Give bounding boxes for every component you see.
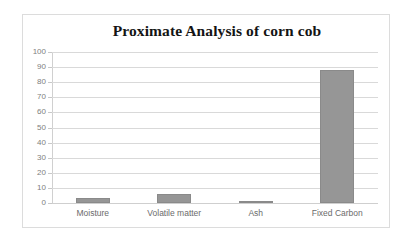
y-axis-tick-label: 30 [20, 153, 46, 162]
y-axis-tick-mark [48, 97, 52, 98]
bar-slot [297, 52, 379, 203]
y-axis-tick-mark [48, 128, 52, 129]
x-axis-category-label: Ash [215, 207, 297, 219]
y-axis-tick-mark [48, 67, 52, 68]
bar-volatile-matter[interactable] [157, 194, 191, 203]
y-axis-tick-label: 50 [20, 123, 46, 132]
y-axis-tick-mark [48, 173, 52, 174]
y-axis-tick-label: 10 [20, 183, 46, 192]
y-axis-tick-label: 40 [20, 138, 46, 147]
x-axis-category-label: Volatile matter [134, 207, 216, 219]
y-axis-tick-mark [48, 158, 52, 159]
y-axis-tick-mark [48, 52, 52, 53]
y-axis-tick-mark [48, 203, 52, 204]
chart-title: Proximate Analysis of corn cob [52, 22, 382, 40]
y-axis-tick-label: 60 [20, 107, 46, 116]
bar-slot [52, 52, 134, 203]
x-axis-category-label: Fixed Carbon [297, 207, 379, 219]
x-axis-category-label: Moisture [52, 207, 134, 219]
plot-area [52, 52, 378, 203]
bar-slot [134, 52, 216, 203]
y-axis-tick-label: 100 [20, 47, 46, 56]
x-axis-labels: MoistureVolatile matterAshFixed Carbon [52, 207, 378, 223]
y-axis-tick-label: 80 [20, 77, 46, 86]
chart-figure: Proximate Analysis of corn cob 100908070… [0, 0, 410, 243]
y-axis-tick-mark [48, 188, 52, 189]
y-axis-tick-label: 0 [20, 198, 46, 207]
y-axis-labels: 1009080706050403020100 [18, 0, 46, 243]
y-axis-tick-label: 20 [20, 168, 46, 177]
bar-slot [215, 52, 297, 203]
bar-moisture[interactable] [76, 198, 110, 203]
bar-fixed-carbon[interactable] [320, 70, 354, 203]
y-axis-tick-label: 90 [20, 62, 46, 71]
y-axis-tick-mark [48, 112, 52, 113]
y-axis-tick-label: 70 [20, 92, 46, 101]
y-axis-tick-mark [48, 143, 52, 144]
gridline [52, 203, 378, 204]
y-axis-tick-mark [48, 82, 52, 83]
bar-ash[interactable] [239, 201, 273, 203]
